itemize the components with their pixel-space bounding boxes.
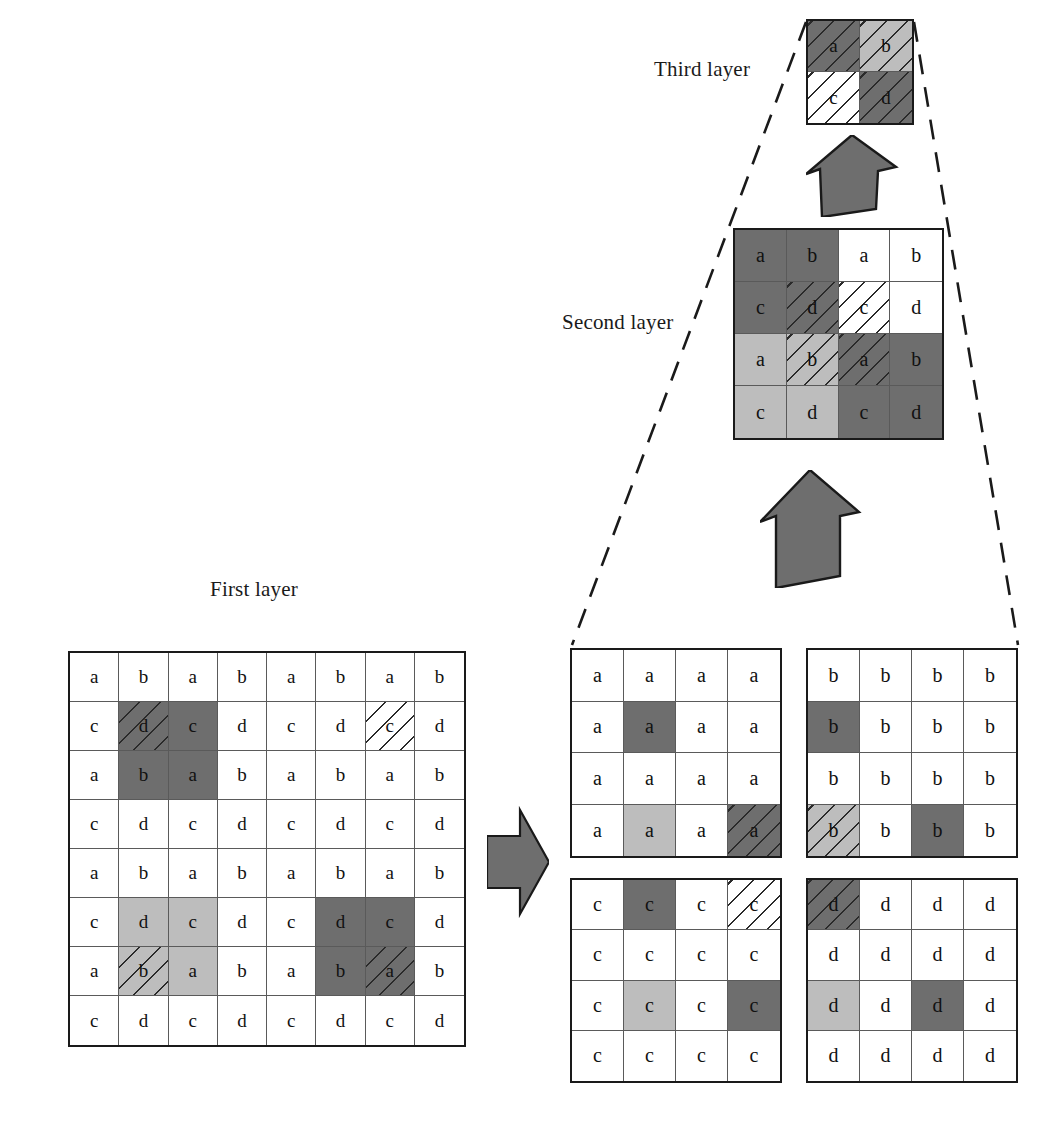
- cell-label: c: [645, 893, 654, 916]
- cell-label: a: [756, 348, 765, 371]
- second-layer-label: Second layer: [562, 310, 673, 335]
- cell-label: a: [90, 960, 98, 982]
- cell-label: a: [593, 715, 602, 738]
- arrow-up-icon-second-to-third: [760, 470, 878, 588]
- sub-grid-d-cell-r2c3: d: [912, 930, 964, 980]
- cell-label: b: [435, 862, 445, 884]
- cell-label: d: [237, 813, 247, 835]
- cell-label: a: [188, 666, 196, 688]
- first-layer-grid-cell-r2c6: d: [316, 702, 365, 751]
- sub-grid-c-cell-r3c3: c: [676, 981, 728, 1031]
- cell-label: c: [859, 296, 868, 319]
- sub-grid-b: bbbbbbbbbbbbbbbb: [806, 648, 1018, 858]
- cell-label: d: [237, 1010, 247, 1032]
- sub-grid-c-cell-r2c4: c: [728, 930, 780, 980]
- cell-label: d: [139, 911, 149, 933]
- cell-label: c: [645, 1044, 654, 1067]
- sub-grid-c-cell-r4c4: c: [728, 1031, 780, 1081]
- cell-label: a: [750, 819, 759, 842]
- cell-label: b: [829, 664, 839, 687]
- sub-grid-c-cell-r2c2: c: [624, 930, 676, 980]
- cell-label: d: [829, 994, 839, 1017]
- second-layer-grid-cell-r2c2: d: [787, 282, 839, 334]
- cell-label: a: [645, 819, 654, 842]
- cell-label: b: [237, 960, 247, 982]
- cell-label: b: [336, 862, 346, 884]
- cell-label: c: [385, 813, 393, 835]
- sub-grid-c-cell-r4c1: c: [572, 1031, 624, 1081]
- cell-label: c: [90, 911, 98, 933]
- cell-label: b: [985, 715, 995, 738]
- cell-label: d: [933, 1044, 943, 1067]
- cell-label: a: [385, 666, 393, 688]
- sub-grid-c-cell-r3c1: c: [572, 981, 624, 1031]
- cell-label: b: [237, 666, 247, 688]
- first-layer-grid-cell-r5c7: a: [366, 849, 415, 898]
- cell-label: c: [90, 715, 98, 737]
- cell-label: a: [287, 764, 295, 786]
- first-layer-grid-cell-r4c2: d: [119, 800, 168, 849]
- second-layer-grid-cell-r3c3: a: [839, 334, 891, 386]
- sub-grid-a-cell-r1c3: a: [676, 650, 728, 702]
- cell-label: d: [139, 715, 149, 737]
- cell-label: c: [859, 401, 868, 424]
- first-layer-grid-cell-r6c3: c: [169, 898, 218, 947]
- first-layer-grid-cell-r4c5: c: [267, 800, 316, 849]
- sub-grid-d-cell-r1c2: d: [860, 880, 912, 930]
- sub-grid-a-cell-r4c4: a: [728, 805, 780, 857]
- sub-grid-d-cell-r2c4: d: [964, 930, 1016, 980]
- second-layer-grid-cell-r1c2: b: [787, 230, 839, 282]
- cell-label: a: [287, 960, 295, 982]
- cell-label: c: [385, 1010, 393, 1032]
- first-layer-grid-cell-r4c8: d: [415, 800, 464, 849]
- cell-label: c: [697, 994, 706, 1017]
- third-layer-grid-cell-r1c2: b: [860, 21, 912, 72]
- cell-label: d: [911, 296, 921, 319]
- first-layer-grid-cell-r3c8: b: [415, 751, 464, 800]
- cell-label: a: [697, 715, 706, 738]
- sub-grid-d-cell-r2c2: d: [860, 930, 912, 980]
- second-layer-grid-cell-r1c1: a: [735, 230, 787, 282]
- first-layer-grid-cell-r3c3: a: [169, 751, 218, 800]
- cell-label: c: [645, 943, 654, 966]
- first-layer-grid-cell-r5c5: a: [267, 849, 316, 898]
- sub-grid-b-cell-r4c1: b: [808, 805, 860, 857]
- cell-label: c: [188, 813, 196, 835]
- cell-label: a: [645, 664, 654, 687]
- cell-label: b: [881, 35, 891, 57]
- first-layer-grid-cell-r1c1: a: [70, 653, 119, 702]
- first-layer-grid-cell-r5c1: a: [70, 849, 119, 898]
- cell-label: a: [750, 715, 759, 738]
- sub-grid-b-cell-r1c4: b: [964, 650, 1016, 702]
- cell-label: d: [829, 893, 839, 916]
- sub-grid-c-cell-r2c1: c: [572, 930, 624, 980]
- sub-grid-b-cell-r2c4: b: [964, 702, 1016, 754]
- cell-label: d: [829, 943, 839, 966]
- cell-label: a: [593, 664, 602, 687]
- cell-label: b: [881, 767, 891, 790]
- third-layer-label: Third layer: [654, 57, 750, 82]
- cell-label: a: [90, 862, 98, 884]
- first-layer-grid-cell-r8c3: c: [169, 996, 218, 1045]
- cell-label: b: [807, 348, 817, 371]
- sub-grid-b-cell-r3c3: b: [912, 753, 964, 805]
- cell-label: b: [881, 819, 891, 842]
- cell-label: d: [336, 715, 346, 737]
- first-layer-grid-cell-r7c5: a: [267, 947, 316, 996]
- sub-grid-a-cell-r3c4: a: [728, 753, 780, 805]
- sub-grid-a-cell-r1c2: a: [624, 650, 676, 702]
- first-layer-grid-cell-r1c2: b: [119, 653, 168, 702]
- sub-grid-d-cell-r1c4: d: [964, 880, 1016, 930]
- cell-label: a: [593, 767, 602, 790]
- cell-label: a: [90, 764, 98, 786]
- cell-label: b: [139, 862, 149, 884]
- sub-grid-b-cell-r1c2: b: [860, 650, 912, 702]
- cell-label: a: [287, 862, 295, 884]
- cell-label: a: [385, 960, 393, 982]
- cell-label: b: [985, 664, 995, 687]
- cell-label: a: [385, 862, 393, 884]
- cell-label: b: [336, 960, 346, 982]
- first-layer-grid-cell-r6c8: d: [415, 898, 464, 947]
- cell-label: a: [385, 764, 393, 786]
- first-layer-grid-cell-r4c4: d: [218, 800, 267, 849]
